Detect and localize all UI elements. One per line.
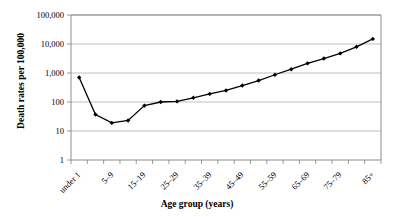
y-axis-ticks — [67, 15, 71, 160]
data-point — [354, 45, 358, 49]
axis-lines — [71, 15, 381, 160]
data-point — [289, 67, 293, 71]
data-point — [240, 83, 244, 87]
data-point — [191, 96, 195, 100]
data-point — [256, 78, 260, 82]
data-point — [77, 75, 81, 79]
data-line — [79, 39, 373, 123]
x-axis-ticks — [71, 160, 381, 164]
death-rate-chart: Death rates per 100,000 Age group (years… — [0, 0, 394, 217]
data-markers — [77, 37, 375, 125]
plot-area — [0, 0, 394, 217]
data-point — [305, 61, 309, 65]
data-point — [322, 56, 326, 60]
data-point — [338, 51, 342, 55]
data-point — [175, 99, 179, 103]
gridlines — [71, 15, 381, 131]
data-point — [159, 100, 163, 104]
data-point — [93, 112, 97, 116]
data-point — [110, 121, 114, 125]
data-point — [371, 37, 375, 41]
data-point — [207, 92, 211, 96]
data-point — [224, 88, 228, 92]
